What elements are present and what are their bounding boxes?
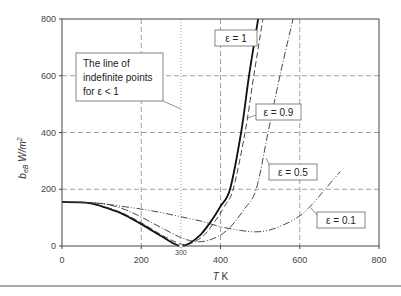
y-tick-label: 200 <box>41 184 56 194</box>
x-tick-label: 0 <box>59 255 64 265</box>
annotation-text: The line of <box>83 58 130 69</box>
x-axis-label: T K <box>213 271 229 282</box>
y-tick-label: 0 <box>51 241 56 251</box>
x-tick-label: 800 <box>371 255 386 265</box>
x-tick-label-300: 300 <box>175 249 187 256</box>
series-labels: ε = 1ε = 0.9ε = 0.5ε = 0.1 <box>215 30 365 228</box>
y-tick-label: 800 <box>41 14 56 24</box>
x-tick-label: 200 <box>134 255 149 265</box>
series-curve <box>62 19 293 242</box>
annotation-text: indefinite points <box>83 72 153 83</box>
y-axis-label: beB W/m2 <box>16 137 29 178</box>
annotation-box: The line ofindefinite pointsfor ε < 1 <box>76 53 181 109</box>
series-label: ε = 0.1 <box>326 215 356 226</box>
series-label: ε = 0.9 <box>264 107 294 118</box>
y-tick-label: 600 <box>41 71 56 81</box>
series-curve <box>62 172 340 232</box>
x-tick-label: 400 <box>213 255 228 265</box>
series-label: ε = 1 <box>225 33 247 44</box>
y-tick-label: 400 <box>41 128 56 138</box>
series-label: ε = 0.5 <box>278 167 308 178</box>
annotation-text: for ε < 1 <box>83 86 119 97</box>
x-tick-label: 600 <box>292 255 307 265</box>
chart: 02004006008003000200400600800T KbeB W/m2… <box>0 0 401 296</box>
